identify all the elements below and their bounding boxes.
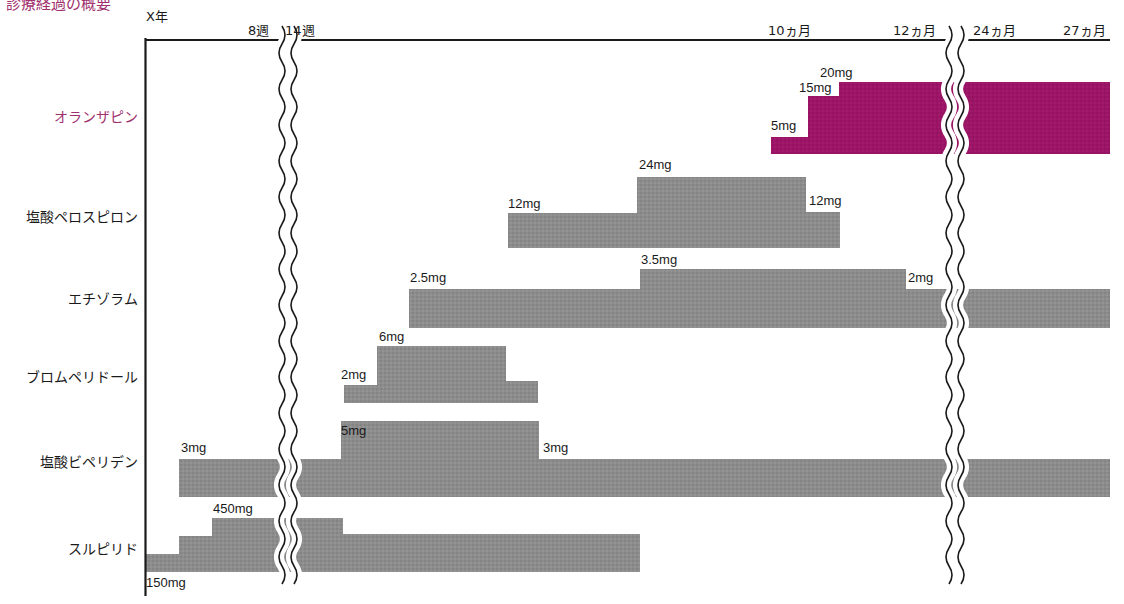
dose-bar-segment — [539, 459, 1110, 497]
dose-bar-segment — [343, 534, 640, 572]
dose-bar-segment — [906, 289, 1110, 328]
dose-bar-segment — [640, 269, 906, 328]
dose-label: 150mg — [146, 575, 186, 590]
dose-label: 3.5mg — [641, 252, 677, 267]
dose-label: 6mg — [379, 329, 404, 344]
dose-label: 12mg — [809, 193, 842, 208]
dose-bar-segment — [508, 213, 637, 248]
drug-name-label: オランザピン — [0, 106, 138, 126]
dose-label: 3mg — [543, 440, 568, 455]
drug-name-label: エチゾラム — [0, 288, 138, 308]
x-tick-label: 8週 — [248, 20, 269, 39]
dose-label: 20mg — [820, 65, 853, 80]
x-tick-label: 14週 — [285, 20, 315, 39]
dose-bar-segment — [179, 459, 341, 497]
dose-label: 2mg — [908, 270, 933, 285]
dose-label: 12mg — [508, 196, 541, 211]
drug-name-label: 塩酸ペロスピロン — [0, 206, 138, 226]
drug-name-label: ブロムペリドール — [0, 366, 138, 386]
x-tick-label: 24ヵ月 — [973, 20, 1016, 39]
dose-bar-segment — [179, 536, 212, 572]
drug-name-label: スルピリド — [0, 538, 138, 558]
medication-timeline-chart: 診療経過の概要 オランザピン塩酸ペロスピロンエチゾラムブロムペリドール塩酸ビペリ… — [0, 0, 1124, 604]
x-tick-label: 27ヵ月 — [1063, 20, 1106, 39]
dose-bar-segment — [377, 346, 506, 403]
dose-bar-segment — [806, 212, 840, 248]
x-tick-label: 10ヵ月 — [768, 20, 811, 39]
dose-bar-segment — [341, 421, 539, 497]
dose-label: 450mg — [213, 501, 253, 516]
dose-label: 15mg — [799, 80, 832, 95]
dose-label: 2mg — [341, 367, 366, 382]
dose-label: 2.5mg — [410, 270, 446, 285]
dose-label: 24mg — [639, 157, 672, 172]
x-tick-label: 12ヵ月 — [893, 20, 936, 39]
chart-canvas — [0, 0, 1124, 604]
drug-name-label: 塩酸ビペリデン — [0, 451, 138, 471]
dose-label: 5mg — [771, 118, 796, 133]
dose-bar-segment — [344, 385, 377, 403]
dose-label: 3mg — [181, 440, 206, 455]
dose-label: 5mg — [341, 423, 366, 438]
dose-bar-segment — [409, 289, 640, 328]
dose-bar-segment — [839, 82, 1110, 154]
dose-bar-segment — [637, 177, 806, 248]
dose-bar-segment — [808, 96, 839, 154]
dose-bar-segment — [771, 137, 808, 154]
dose-bar-segment — [506, 381, 538, 403]
dose-bar-segment — [146, 554, 179, 572]
x-origin-label: X年 — [146, 6, 168, 25]
